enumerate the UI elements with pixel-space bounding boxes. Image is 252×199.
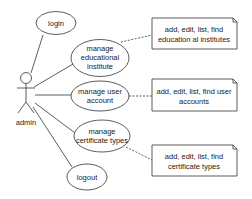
use-case-certificate-line-2: certificate types [76,136,128,145]
actor-head [21,73,32,84]
note-1-line-2: education al institutes [158,35,230,44]
note-connector-3 [126,147,152,160]
note-2-line-2: accounts [179,97,209,106]
use-case-educational-line-1: manage [86,44,113,53]
actor-label: admin [16,118,36,127]
use-case-diagram: admin login manage educational institute… [0,0,252,199]
use-case-login-label: login [48,19,64,28]
actor-leg-left [18,102,26,113]
actor-admin[interactable] [17,73,35,114]
association-educational [34,64,73,87]
diagram-svg: admin login manage educational institute… [0,0,252,199]
note-connector-1 [121,35,152,42]
note-1-line-1: add, edit, list, find [165,25,223,34]
use-case-user-account-line-2: account [87,96,114,105]
note-3-line-2: certificate types [168,162,220,171]
associations [31,35,75,167]
use-case-educational-line-2: educational [81,53,120,62]
use-case-certificate-line-1: manage [88,127,115,136]
use-case-logout-label: logout [77,173,98,182]
use-case-user-account-line-1: manage user [78,87,122,96]
association-certificate [35,103,75,133]
note-3-line-1: add, edit, list, find [165,152,223,161]
association-login [31,35,43,73]
use-case-educational-line-3: institute [87,62,113,71]
note-2-line-1: add, edit, list, find user [156,87,232,96]
actor-leg-right [26,102,34,113]
